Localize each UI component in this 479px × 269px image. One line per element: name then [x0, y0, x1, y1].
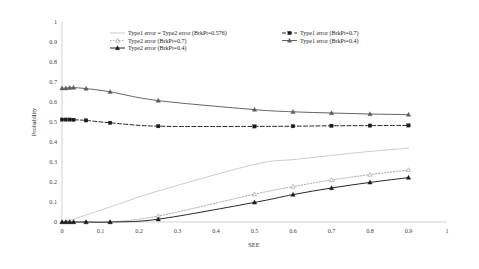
x-tick-label: 0.1: [97, 227, 105, 234]
data-point-marker: [84, 119, 87, 122]
legend-label: Type1 error = Type2 error (BrkPt=0.576): [128, 30, 227, 37]
data-point-marker: [64, 118, 67, 121]
y-tick-label: 0.3: [49, 158, 57, 165]
data-point-marker: [291, 125, 294, 128]
y-tick-label: 0.6: [49, 98, 57, 105]
x-tick-label: 0.5: [251, 227, 259, 234]
data-point-marker: [288, 31, 291, 34]
y-tick-label: 0.9: [49, 38, 57, 45]
legend-label: Type2 error (BrkPt=0.7): [128, 38, 186, 45]
data-point-marker: [60, 118, 63, 121]
x-axis-title: SEE: [248, 241, 259, 248]
data-point-marker: [68, 118, 71, 121]
data-point-marker: [330, 124, 333, 127]
y-tick-label: 0.2: [49, 178, 57, 185]
x-tick-label: 0.9: [405, 227, 413, 234]
x-tick-label: 0.7: [328, 227, 336, 234]
y-tick-label: 0.7: [49, 78, 57, 85]
x-tick-label: 0.3: [174, 227, 182, 234]
y-axis-title: Probability: [30, 107, 37, 136]
x-tick-label: 0.6: [289, 227, 297, 234]
x-tick-label: 0.8: [366, 227, 374, 234]
y-tick-label: 0.4: [49, 138, 57, 145]
legend-label: Type1 error (BrkPt=0.7): [300, 30, 358, 37]
x-tick-label: 0.4: [212, 227, 220, 234]
chart-container: 00.10.20.30.40.50.60.70.80.91 00.10.20.3…: [0, 0, 479, 269]
data-point-marker: [157, 125, 160, 128]
legend-label: Type1 error (BrkPt=0.4): [300, 38, 358, 45]
data-point-marker: [72, 118, 75, 121]
y-tick-label: 0.8: [49, 58, 57, 65]
y-tick-label: 0.1: [49, 198, 57, 205]
legend-item[interactable]: Type1 error = Type2 error (BrkPt=0.576): [110, 30, 227, 37]
x-tick-label: 0.2: [135, 227, 143, 234]
x-tick-label: 1: [445, 227, 448, 234]
data-point-marker: [368, 124, 371, 127]
x-tick-label: 0: [60, 227, 63, 234]
data-point-marker: [108, 121, 111, 124]
line-chart: 00.10.20.30.40.50.60.70.80.91 00.10.20.3…: [0, 0, 479, 269]
y-tick-label: 1: [54, 18, 57, 25]
data-point-marker: [407, 124, 410, 127]
data-point-marker: [253, 125, 256, 128]
legend-label: Type2 error (BrkPt=0.4): [128, 45, 186, 52]
y-tick-label: 0: [54, 218, 57, 225]
y-tick-label: 0.5: [49, 118, 57, 125]
